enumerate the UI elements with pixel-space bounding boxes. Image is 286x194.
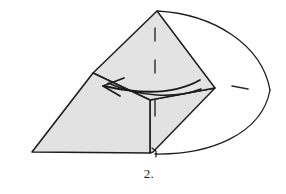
origami-diagram-svg: Origami fold step 2 diagram [0, 0, 286, 194]
crease-dash-right [232, 86, 248, 89]
step-number-caption: 2. [6, 166, 286, 182]
origami-figure: Origami fold step 2 diagram 2. [0, 0, 286, 194]
